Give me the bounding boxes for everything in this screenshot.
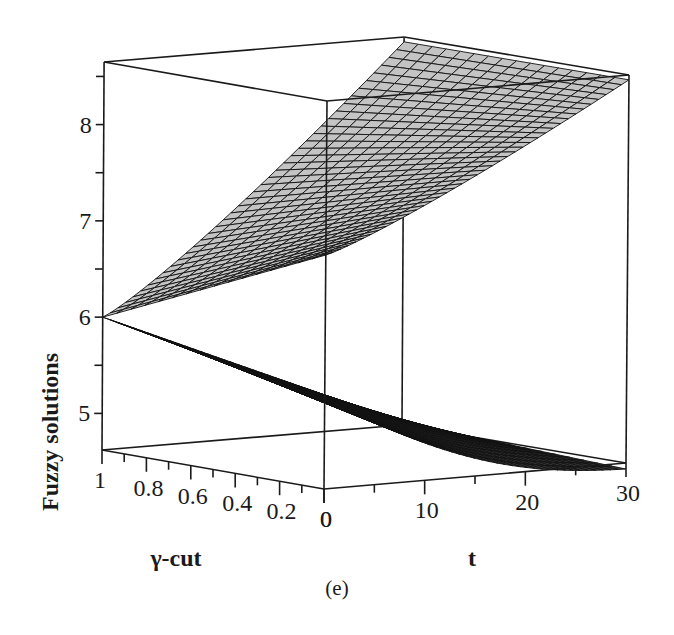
t-tick-label: 30 [616,480,640,506]
t-axis: 0102030 [320,463,640,532]
z-tick-label: 6 [79,304,91,330]
z-tick-label: 7 [79,208,91,234]
t-tick-label: 20 [515,489,539,515]
box-edge-back-bottom-left [102,425,402,450]
gamma-tick-label: 1 [94,467,106,493]
figure-caption: (e) [325,576,348,600]
z-axis-title: Fuzzy solutions [37,353,63,511]
t-tick-label: 10 [415,497,439,523]
gamma-tick-label: 0.6 [178,483,208,509]
upper-bound-surface [103,42,629,317]
gamma-tick-label: 0.2 [267,498,297,524]
gamma-axis: 10.80.60.40.20 [94,450,332,532]
lower-bound-surface [103,317,626,470]
box-edge-right-vertical [626,75,629,463]
z-tick-label: 8 [80,112,92,138]
gamma-tick-label: 0.4 [222,490,252,516]
z-axis-line [102,62,104,450]
t-tick-label: 0 [320,506,332,532]
surface-plot: 5678 10.80.60.40.20 0102030 Fuzzy soluti… [0,0,674,635]
gamma-tick-label: 0.8 [133,475,163,501]
z-axis: 5678 [78,76,104,426]
z-tick-label: 5 [78,400,90,426]
box-edge-top-front-left [104,62,327,101]
t-axis-title: t [468,545,476,571]
fuzzy-solution-surface [103,42,629,471]
box-edge-top-back-left [104,37,404,62]
gamma-axis-title: γ-cut [149,545,201,571]
